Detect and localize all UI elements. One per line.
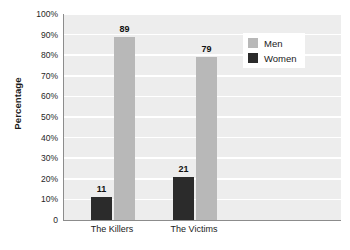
y-axis-tick-label: 30% [2, 153, 58, 163]
y-axis-tick-label: 10% [2, 194, 58, 204]
y-axis-tick-label: 90% [2, 30, 58, 40]
legend-item-women[interactable]: Women [248, 52, 297, 64]
legend-swatch-icon [248, 38, 258, 48]
y-axis-tick-label: 40% [2, 133, 58, 143]
legend-item-men[interactable]: Men [248, 37, 297, 49]
y-axis-tick-label: 100% [2, 9, 58, 19]
bar-value-label: 79 [187, 44, 227, 54]
bar-the-victims-women [173, 177, 194, 220]
bar-the-killers-women [91, 197, 112, 220]
legend-label: Women [264, 53, 297, 64]
y-axis-tick-label: 80% [2, 50, 58, 60]
bar-the-killers-men [114, 37, 135, 220]
y-axis-tick-label: 70% [2, 71, 58, 81]
y-axis-tick-label: 50% [2, 112, 58, 122]
bar-chart: Percentage 100%90%80%70%60%50%40%30%20%1… [0, 0, 350, 250]
bar-value-label: 89 [105, 24, 145, 34]
y-axis-tick-label: 20% [2, 174, 58, 184]
x-axis-category-labels: The KillersThe Victims [0, 224, 350, 246]
x-axis-label-the-victims: The Victims [149, 224, 239, 234]
bar-the-victims-men [196, 57, 217, 220]
x-axis-label-the-killers: The Killers [67, 224, 157, 234]
y-axis-tick-label: 60% [2, 91, 58, 101]
legend: MenWomen [243, 33, 305, 68]
legend-label: Men [264, 38, 282, 49]
y-axis-tick-labels: 100%90%80%70%60%50%40%30%20%10%0 [0, 0, 58, 236]
legend-swatch-icon [248, 53, 258, 63]
